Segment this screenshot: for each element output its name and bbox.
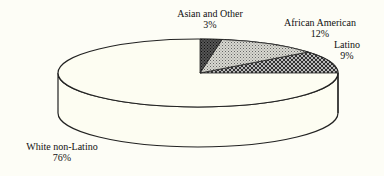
label-asian-other: Asian and Other 3% — [170, 8, 250, 30]
label-african-american: African American 12% — [270, 17, 370, 39]
label-white-non-latino: White non-Latino 76% — [12, 141, 112, 163]
label-asian-other-name: Asian and Other — [170, 8, 250, 19]
label-african-american-name: African American — [270, 17, 370, 28]
label-african-american-pct: 12% — [270, 28, 370, 39]
label-latino-pct: 9% — [322, 50, 372, 61]
label-latino: Latino 9% — [322, 39, 372, 61]
label-white-non-latino-pct: 76% — [12, 152, 112, 163]
label-asian-other-pct: 3% — [170, 19, 250, 30]
label-latino-name: Latino — [322, 39, 372, 50]
label-white-non-latino-name: White non-Latino — [12, 141, 112, 152]
